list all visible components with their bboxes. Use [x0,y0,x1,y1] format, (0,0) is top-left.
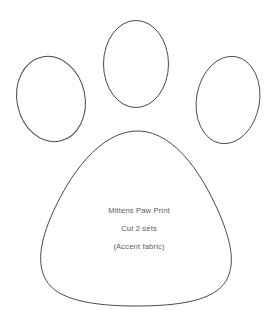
paw-print-pattern-canvas: Mittens Paw Print Cut 2 sets (Accent fab… [0,0,274,326]
pattern-label-line-3: (Accent fabric) [113,242,165,251]
toe-pad-middle-shape[interactable] [104,21,169,108]
pattern-label-line-2: Cut 2 sets [121,224,157,233]
pattern-label-line-1: Mittens Paw Print [108,206,170,215]
